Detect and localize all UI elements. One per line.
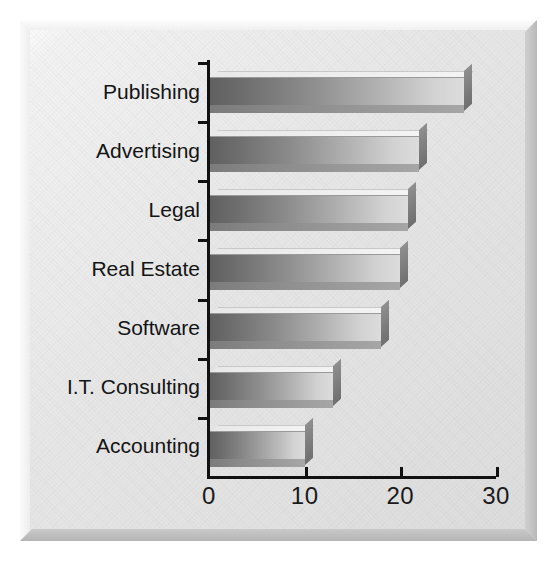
category-label: Publishing bbox=[103, 80, 200, 104]
bar-bottom-shadow bbox=[209, 341, 381, 349]
x-axis-tick-label: 30 bbox=[482, 482, 510, 510]
bar-bottom-shadow bbox=[209, 105, 464, 113]
bar-i-t-consulting bbox=[209, 366, 333, 408]
bar-front-face bbox=[209, 313, 381, 342]
category-label: Software bbox=[117, 316, 200, 340]
y-axis-tick bbox=[198, 62, 208, 65]
y-axis-tick bbox=[198, 417, 208, 420]
bar-end-cap bbox=[400, 241, 408, 288]
bar-front-face bbox=[209, 195, 408, 224]
bar-end-cap bbox=[464, 63, 472, 110]
chart-screenshot: PublishingAdvertisingLegalReal EstateSof… bbox=[0, 0, 557, 562]
y-axis-tick bbox=[198, 299, 208, 302]
bar-front-face bbox=[209, 77, 464, 106]
category-label: Legal bbox=[149, 198, 200, 222]
y-axis-tick bbox=[198, 358, 208, 361]
bar-end-cap bbox=[333, 359, 341, 406]
y-axis-tick bbox=[198, 121, 208, 124]
x-axis-tick-label: 10 bbox=[291, 482, 319, 510]
x-axis-line bbox=[207, 476, 496, 479]
x-axis-tick bbox=[400, 467, 403, 477]
bar-legal bbox=[209, 189, 408, 231]
bar-end-cap bbox=[305, 418, 313, 465]
x-axis-tick-label: 20 bbox=[386, 482, 414, 510]
category-label: Advertising bbox=[96, 139, 200, 163]
bar-front-face bbox=[209, 372, 333, 401]
bar-real-estate bbox=[209, 248, 400, 290]
bar-front-face bbox=[209, 254, 400, 283]
bar-end-cap bbox=[381, 300, 389, 347]
bar-accounting bbox=[209, 425, 305, 467]
x-axis-tick-label: 0 bbox=[202, 482, 216, 510]
category-label: I.T. Consulting bbox=[67, 375, 200, 399]
bar-chart-plot-area: PublishingAdvertisingLegalReal EstateSof… bbox=[0, 0, 557, 562]
x-axis-tick bbox=[496, 467, 499, 477]
x-axis-tick bbox=[305, 467, 308, 477]
y-axis-tick bbox=[198, 239, 208, 242]
category-label: Accounting bbox=[96, 434, 200, 458]
bar-publishing bbox=[209, 71, 464, 113]
category-label: Real Estate bbox=[91, 257, 200, 281]
bar-advertising bbox=[209, 130, 419, 172]
bar-bottom-shadow bbox=[209, 164, 419, 172]
bar-front-face bbox=[209, 136, 419, 165]
bar-bottom-shadow bbox=[209, 400, 333, 408]
bar-front-face bbox=[209, 431, 305, 460]
bar-bottom-shadow bbox=[209, 459, 305, 467]
bar-software bbox=[209, 307, 381, 349]
bar-end-cap bbox=[408, 182, 416, 229]
bar-end-cap bbox=[419, 122, 427, 169]
bar-bottom-shadow bbox=[209, 282, 400, 290]
y-axis-tick bbox=[198, 180, 208, 183]
bar-bottom-shadow bbox=[209, 223, 408, 231]
